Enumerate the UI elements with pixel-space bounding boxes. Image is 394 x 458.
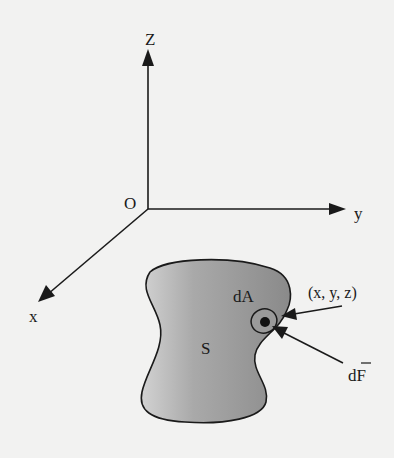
surface-label: S	[201, 339, 210, 358]
diagram-canvas: Z y x O S dA (x, y, z) dF	[0, 0, 394, 458]
z-axis	[142, 49, 154, 209]
force-arrow	[272, 326, 343, 363]
point-pointer-arrow	[281, 306, 342, 320]
x-axis-label: x	[29, 307, 38, 326]
force-label-text: dF	[348, 366, 366, 385]
surface-s	[141, 260, 290, 423]
y-axis	[148, 203, 346, 215]
x-arrowhead-icon	[38, 285, 55, 302]
force-label: dF	[348, 363, 371, 385]
point-coordinates-label: (x, y, z)	[308, 284, 357, 302]
y-arrowhead-icon	[329, 203, 346, 215]
z-arrowhead-icon	[142, 49, 154, 66]
area-element-label: dA	[233, 287, 255, 306]
origin-label: O	[124, 194, 136, 213]
force-arrowhead-icon	[272, 326, 288, 339]
point-dot	[260, 317, 270, 327]
y-axis-label: y	[354, 204, 363, 223]
z-axis-label: Z	[145, 30, 155, 49]
x-axis	[38, 209, 148, 302]
